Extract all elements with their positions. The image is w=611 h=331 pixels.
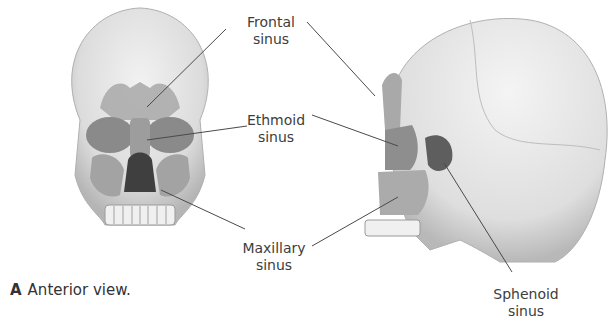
label-maxillary-sinus: Maxillary sinus	[234, 240, 314, 274]
lateral-skull	[365, 18, 607, 262]
anterior-skull	[72, 8, 209, 225]
label-frontal-sinus: Frontal sinus	[236, 14, 306, 48]
panel-a-caption: AAnterior view.	[10, 281, 131, 299]
panel-letter: A	[10, 281, 22, 299]
label-ethmoid-sinus: Ethmoid sinus	[241, 112, 311, 146]
caption-text: Anterior view.	[28, 281, 131, 299]
label-sphenoid-sinus: Sphenoid sinus	[486, 286, 566, 320]
